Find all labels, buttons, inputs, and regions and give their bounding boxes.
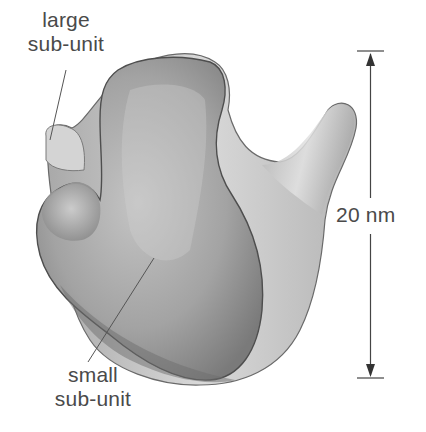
large-subunit-label-line1: large xyxy=(18,8,114,32)
small-subunit-label-line1: small xyxy=(38,363,148,387)
small-subunit-label: small sub-unit xyxy=(38,363,148,411)
scale-bar-label: 20 nm xyxy=(336,203,416,227)
large-subunit-label: large sub-unit xyxy=(18,8,114,56)
large-subunit-label-line2: sub-unit xyxy=(18,32,114,56)
small-subunit-label-line2: sub-unit xyxy=(38,387,148,411)
